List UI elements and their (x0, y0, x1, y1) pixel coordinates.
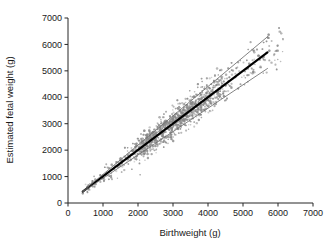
scatter-point (158, 131, 159, 132)
scatter-point (140, 133, 142, 135)
scatter-point (189, 105, 191, 107)
scatter-point (185, 130, 187, 132)
upper-prediction-limit (83, 37, 268, 192)
scatter-point (130, 147, 132, 149)
scatter-point (171, 128, 173, 130)
scatter-point (247, 49, 248, 50)
scatter-point (185, 102, 187, 104)
scatter-point (182, 112, 184, 114)
scatter-point (193, 104, 195, 106)
scatter-point (257, 55, 259, 57)
plot-canvas: 0100020003000400050006000700001000200030… (0, 0, 331, 242)
scatter-point (196, 122, 198, 124)
scatter-point (211, 77, 213, 79)
scatter-point (142, 143, 144, 145)
scatter-point (165, 142, 167, 144)
scatter-point (204, 106, 205, 107)
scatter-point (93, 175, 95, 177)
scatter-point (142, 134, 144, 136)
scatter-point (231, 83, 233, 85)
scatter-point (187, 108, 189, 110)
scatter-point (131, 168, 133, 170)
scatter-point (169, 123, 170, 124)
scatter-point (205, 111, 207, 113)
scatter-point (177, 113, 179, 115)
scatter-point (212, 87, 214, 89)
scatter-point (188, 129, 189, 130)
scatter-point (160, 129, 162, 131)
scatter-point (231, 69, 233, 71)
scatter-point (252, 69, 254, 71)
scatter-point (217, 95, 219, 97)
scatter-point (274, 59, 276, 61)
scatter-point (212, 98, 214, 100)
scatter-point (105, 163, 107, 165)
x-tick-label: 6000 (268, 208, 288, 218)
scatter-point (85, 184, 87, 186)
scatter-point (149, 148, 151, 150)
scatter-point (124, 147, 126, 149)
scatter-point (162, 116, 164, 118)
scatter-point (222, 91, 224, 93)
scatter-point (169, 136, 171, 138)
scatter-point (208, 100, 210, 102)
scatter-point (167, 143, 169, 145)
scatter-point (244, 71, 246, 73)
scatter-point (127, 150, 129, 152)
scatter-point (94, 187, 96, 189)
scatter-point (243, 75, 245, 77)
scatter-point (268, 59, 270, 61)
scatter-point (141, 154, 142, 155)
scatter-point (173, 111, 175, 113)
scatter-point (157, 145, 159, 147)
scatter-point (108, 179, 110, 181)
scatter-point (160, 120, 162, 122)
y-tick-label: 6000 (42, 40, 62, 50)
scatter-point (246, 74, 248, 76)
scatter-point (154, 132, 156, 134)
scatter-point (197, 83, 199, 85)
scatter-point (104, 166, 106, 168)
scatter-point (208, 87, 210, 89)
scatter-point (190, 124, 192, 126)
scatter-point (106, 166, 108, 168)
scatter-point (176, 99, 178, 101)
scatter-point (268, 50, 270, 52)
scatter-point (198, 101, 200, 103)
scatter-point (111, 164, 113, 166)
scatter-point (231, 73, 233, 75)
x-tick-label: 2000 (128, 208, 148, 218)
scatter-point (138, 140, 140, 142)
scatter-point (246, 60, 248, 62)
scatter-point (139, 163, 141, 165)
scatter-point (225, 90, 227, 92)
scatter-point (127, 147, 128, 148)
scatter-point (263, 59, 264, 60)
scatter-point (178, 106, 180, 108)
scatter-point (143, 155, 145, 157)
scatter-point (204, 86, 205, 87)
scatter-point (170, 138, 172, 140)
scatter-point (195, 100, 197, 102)
scatter-point (178, 121, 180, 123)
x-tick-label: 3000 (163, 208, 183, 218)
scatter-point (209, 77, 211, 79)
scatter-point (274, 64, 276, 66)
scatter-point (238, 70, 240, 72)
scatter-point (201, 78, 203, 80)
scatter-point (143, 142, 145, 144)
scatter-point (179, 102, 181, 104)
scatter-point (231, 62, 233, 64)
scatter-point (162, 128, 163, 129)
scatter-point (181, 102, 183, 104)
scatter-point (270, 61, 272, 63)
y-tick-label: 0 (57, 198, 62, 208)
scatter-point (156, 148, 157, 149)
scatter-point (180, 132, 182, 134)
scatter-point (226, 77, 228, 79)
x-tick-label: 4000 (198, 208, 218, 218)
scatter-point (157, 126, 159, 128)
scatter-point (197, 87, 199, 89)
scatter-point (261, 48, 263, 50)
scatter-point (87, 191, 88, 192)
